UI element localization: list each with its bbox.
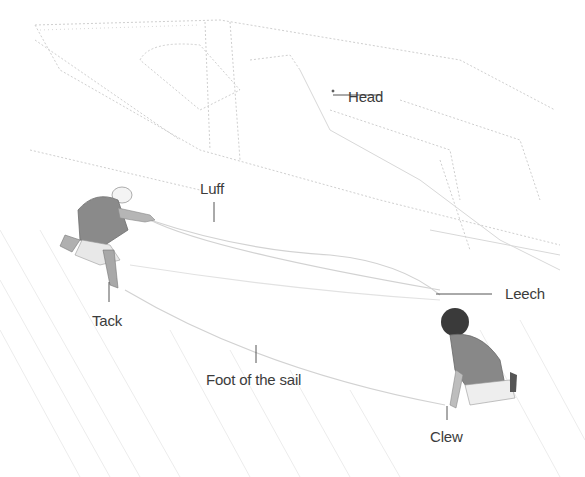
label-luff: Luff bbox=[200, 181, 224, 196]
label-clew: Clew bbox=[430, 429, 463, 444]
deck-planks bbox=[0, 230, 585, 477]
label-leech: Leech bbox=[505, 286, 545, 301]
label-tack: Tack bbox=[92, 313, 122, 328]
label-head: Head bbox=[348, 89, 383, 104]
sail-parts-diagram: Head Luff Leech Tack Foot of the sail Cl… bbox=[0, 0, 585, 477]
label-foot: Foot of the sail bbox=[206, 372, 301, 387]
person-tack bbox=[60, 187, 155, 288]
person-clew bbox=[441, 308, 517, 408]
illustration bbox=[0, 0, 585, 477]
